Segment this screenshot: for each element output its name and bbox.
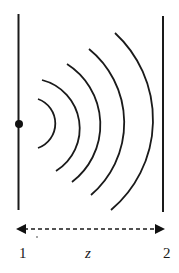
wavefront-5 [111, 33, 153, 210]
distance-label: z [85, 246, 91, 261]
arrowhead-right-icon [155, 224, 165, 234]
arrowhead-left-icon [16, 224, 26, 234]
wavefront-2 [42, 80, 80, 171]
point-source-dot [15, 120, 23, 128]
wave-diagram [0, 0, 179, 273]
wavefront-1 [38, 99, 55, 148]
wavefront-3 [67, 64, 100, 182]
plane-1-label: 1 [19, 246, 27, 261]
wavefront-4 [89, 49, 124, 195]
wavefronts [38, 33, 153, 210]
stray-dot [36, 236, 38, 238]
plane-2-label: 2 [163, 246, 171, 261]
